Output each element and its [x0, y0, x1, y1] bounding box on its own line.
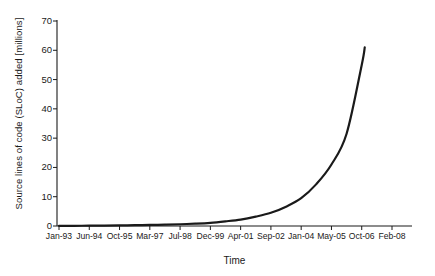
axis-lines [57, 20, 412, 226]
plot-area [0, 0, 435, 276]
data-series-line [59, 47, 365, 225]
y-axis-ticks [53, 21, 57, 226]
chart-container: Source lines of code (SLoC) added [milli… [0, 0, 435, 276]
